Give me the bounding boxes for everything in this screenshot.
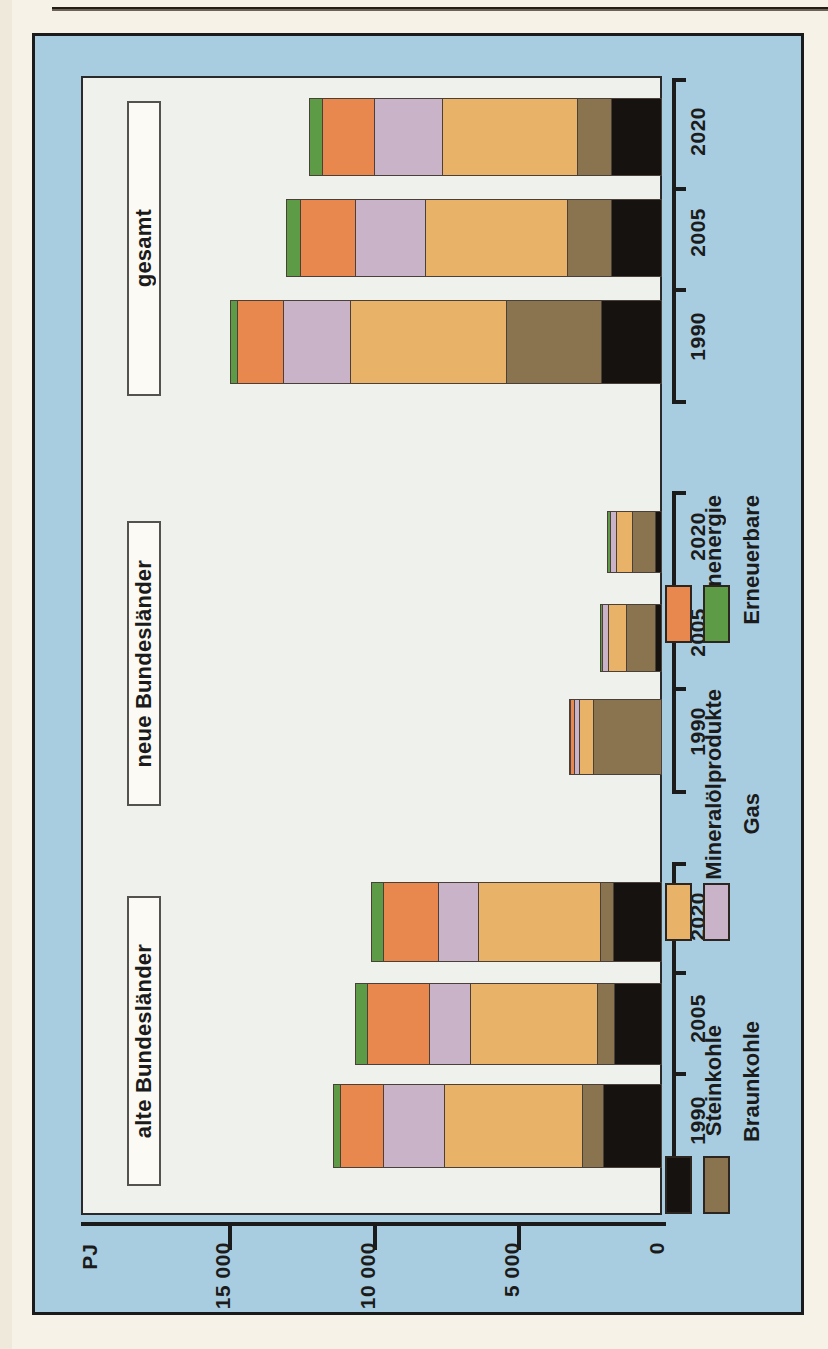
legend-swatch-braunkohle [703, 1156, 730, 1214]
year-tick [672, 288, 686, 292]
bar-segment-braunkohle[interactable] [632, 511, 655, 573]
bar-segment-gas[interactable] [429, 983, 469, 1065]
bar-segment-steinkohle[interactable] [613, 882, 662, 962]
page-left-edge [0, 0, 12, 1349]
bar-segment-kernenergie[interactable] [300, 199, 355, 277]
group-bracket-2 [672, 491, 686, 794]
bar-segment-gas[interactable] [383, 1084, 444, 1168]
bar-segment-mineralölprodukte[interactable] [470, 983, 597, 1065]
group-bracket-1 [672, 78, 686, 404]
group-label-text: alte Bundesländer [131, 944, 157, 1138]
group-label-text: gesamt [131, 209, 157, 287]
year-tick [672, 687, 686, 691]
bar-segment-steinkohle[interactable] [601, 300, 662, 384]
bar-segment-braunkohle[interactable] [506, 300, 601, 384]
bar-neue-bundesländer-2005[interactable] [600, 604, 662, 672]
bar-segment-steinkohle[interactable] [603, 1084, 662, 1168]
bar-segment-mineralölprodukte[interactable] [579, 699, 593, 775]
year-label-2005: 2005 [687, 208, 708, 257]
year-tick [672, 1072, 686, 1076]
axis-tick-label: 10 000 [357, 1242, 378, 1309]
bar-segment-mineralölprodukte[interactable] [444, 1084, 583, 1168]
axis-tick-label: 5 000 [501, 1242, 522, 1297]
year-label-1990: 1990 [687, 1096, 708, 1145]
year-label-1990: 1990 [687, 312, 708, 361]
chart-panel: PJ 15 00010 0005 0000 202020051990202020… [32, 33, 804, 1315]
bar-segment-gas[interactable] [355, 199, 424, 277]
bar-segment-erneuerbare[interactable] [371, 882, 383, 962]
bar-segment-mineralölprodukte[interactable] [616, 511, 632, 573]
group-label-box-1: gesamt [127, 101, 161, 396]
year-label-2005: 2005 [687, 608, 708, 657]
bar-alte-bundesländer-1990[interactable] [333, 1084, 662, 1168]
axis-tick-label: 15 000 [212, 1242, 233, 1309]
bar-segment-kernenergie[interactable] [367, 983, 429, 1065]
bar-segment-kernenergie[interactable] [383, 882, 438, 962]
year-label-2005: 2005 [687, 994, 708, 1043]
bar-segment-mineralölprodukte[interactable] [350, 300, 506, 384]
year-tick [672, 187, 686, 191]
bar-segment-braunkohle[interactable] [600, 882, 613, 962]
group-bracket-3 [672, 862, 686, 1184]
page-top-rule [52, 7, 828, 11]
bar-segment-braunkohle[interactable] [597, 983, 614, 1065]
bar-segment-braunkohle[interactable] [577, 98, 612, 176]
bar-segment-erneuerbare[interactable] [333, 1084, 340, 1168]
bar-segment-mineralölprodukte[interactable] [425, 199, 567, 277]
year-label-2020: 2020 [687, 892, 708, 941]
bar-segment-steinkohle[interactable] [614, 983, 662, 1065]
bar-segment-erneuerbare[interactable] [286, 199, 300, 277]
bar-neue-bundesländer-1990[interactable] [569, 699, 662, 775]
legend-label-braunkohle: Braunkohle [741, 1021, 763, 1142]
bar-segment-steinkohle[interactable] [611, 199, 662, 277]
year-tick [672, 971, 686, 975]
year-label-1990: 1990 [687, 707, 708, 756]
bar-segment-mineralölprodukte[interactable] [608, 604, 625, 672]
bar-segment-braunkohle[interactable] [582, 1084, 602, 1168]
legend-label-gas: Gas [741, 793, 763, 835]
bar-segment-gas[interactable] [374, 98, 442, 176]
bar-segment-kernenergie[interactable] [340, 1084, 383, 1168]
year-label-2020: 2020 [687, 512, 708, 561]
bar-segment-braunkohle[interactable] [626, 604, 655, 672]
bar-gesamt-2005[interactable] [286, 199, 662, 277]
year-tick [672, 592, 686, 596]
legend-label-erneuerbare: Erneuerbare [741, 495, 763, 625]
bar-neue-bundesländer-2020[interactable] [607, 511, 662, 573]
bar-segment-steinkohle[interactable] [655, 604, 662, 672]
bar-segment-gas[interactable] [283, 300, 350, 384]
group-label-box-2: neue Bundesländer [127, 521, 161, 806]
bar-segment-erneuerbare[interactable] [309, 98, 322, 176]
bar-segment-braunkohle[interactable] [567, 199, 612, 277]
axis-unit-label: PJ [79, 1244, 100, 1270]
year-label-2020: 2020 [687, 107, 708, 156]
bar-segment-kernenergie[interactable] [322, 98, 374, 176]
bar-alte-bundesländer-2020[interactable] [371, 882, 662, 962]
bar-segment-mineralölprodukte[interactable] [442, 98, 576, 176]
bar-segment-steinkohle[interactable] [655, 511, 662, 573]
bar-segment-steinkohle[interactable] [611, 98, 662, 176]
bar-segment-erneuerbare[interactable] [230, 300, 237, 384]
bar-segment-erneuerbare[interactable] [355, 983, 367, 1065]
group-label-box-3: alte Bundesländer [127, 896, 161, 1186]
bar-alte-bundesländer-2005[interactable] [355, 983, 662, 1065]
bar-gesamt-1990[interactable] [230, 300, 662, 384]
bar-segment-gas[interactable] [438, 882, 478, 962]
bar-gesamt-2020[interactable] [309, 98, 662, 176]
axis-tick-label-0: 0 [646, 1242, 667, 1254]
group-label-text: neue Bundesländer [131, 560, 157, 768]
bar-segment-mineralölprodukte[interactable] [478, 882, 599, 962]
bar-segment-braunkohle[interactable] [593, 699, 662, 775]
bar-segment-kernenergie[interactable] [237, 300, 283, 384]
